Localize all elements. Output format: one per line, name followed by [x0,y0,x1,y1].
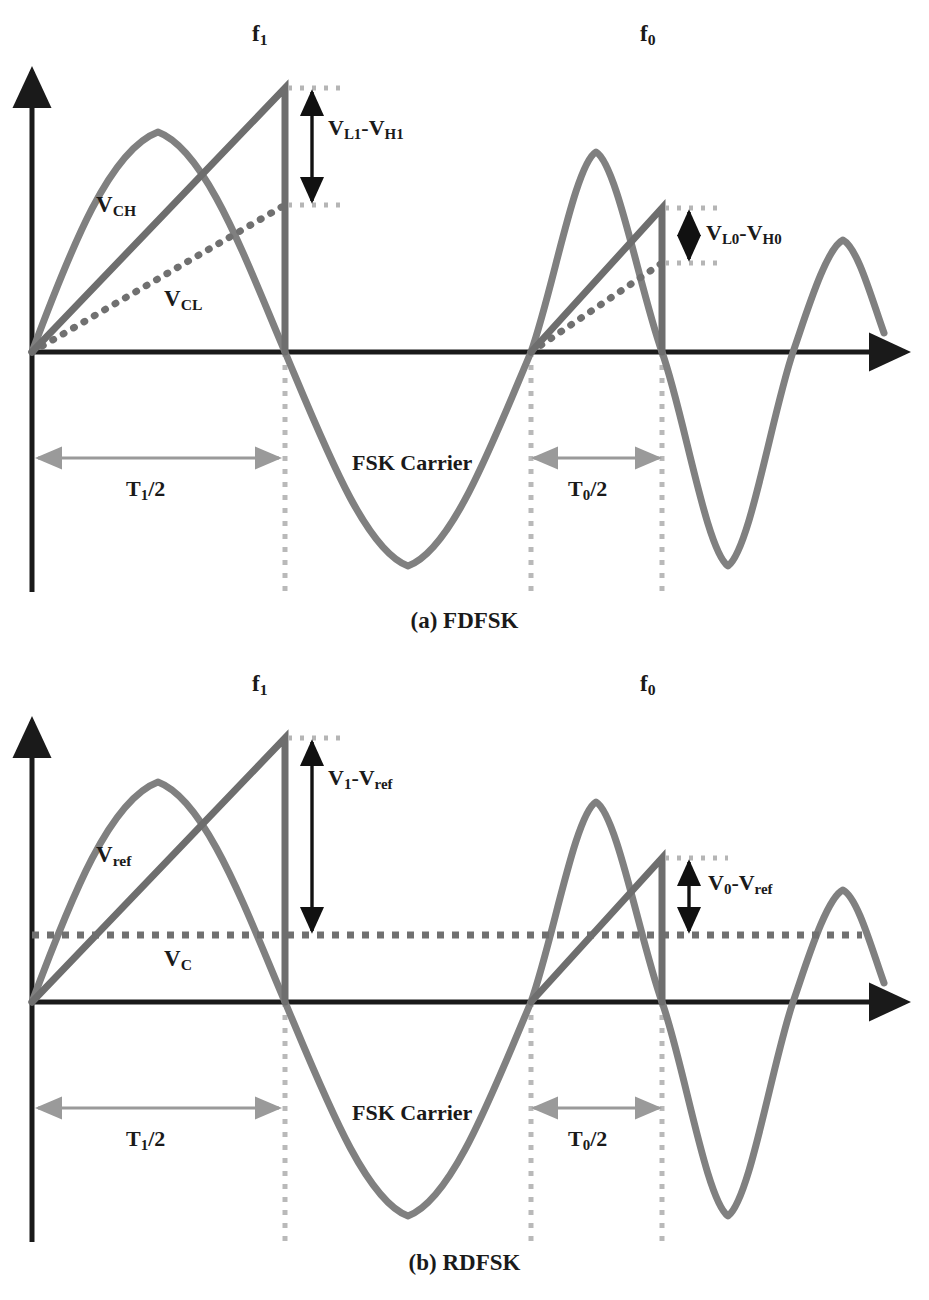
axes-b [32,722,905,1242]
signal-label-vc: VC [164,947,192,970]
period-label-t1-a: T1/2 [126,478,165,500]
period-label-t0-a: T0/2 [568,478,607,500]
signal-label-vref: Vref [96,843,131,866]
diff-label-vl1-vh1: VL1-VH1 [328,117,404,139]
caption-panel-b: (b) RDFSK [0,1250,929,1276]
panel-b-drawing [0,650,929,1300]
level-guides-a [288,88,722,263]
diff-label-v0-vref: V0-Vref [708,872,773,894]
axes-a [32,72,905,592]
level-guides-b [288,738,728,858]
period-label-t0-b: T0/2 [568,1128,607,1150]
caption-panel-a: (a) FDFSK [0,608,929,634]
panel-a-drawing [0,0,929,650]
freq-label-f1-b: f1 [252,672,267,695]
panel-rdfsk: f1 f0 Vref VC V1-Vref V0-Vref T1/2 T0/2 … [0,650,929,1300]
signal-label-vcl: VCL [164,287,202,310]
fsk-demodulation-figure: f1 f0 VCH VCL VL1-VH1 VL0-VH0 T1/2 T0/2 … [0,0,929,1300]
diff-label-vl0-vh0: VL0-VH0 [706,222,782,244]
period-label-t1-b: T1/2 [126,1128,165,1150]
carrier-label-a: FSK Carrier [352,452,472,474]
freq-label-f1-a: f1 [252,22,267,45]
diff-label-v1-vref: V1-Vref [328,767,393,789]
guide-lines-b [285,1002,662,1242]
signal-label-vch: VCH [96,193,136,216]
freq-label-f0-b: f0 [640,672,655,695]
panel-fdfsk: f1 f0 VCH VCL VL1-VH1 VL0-VH0 T1/2 T0/2 … [0,0,929,650]
guide-lines-a [285,352,662,592]
carrier-label-b: FSK Carrier [352,1102,472,1124]
freq-label-f0-a: f0 [640,22,655,45]
